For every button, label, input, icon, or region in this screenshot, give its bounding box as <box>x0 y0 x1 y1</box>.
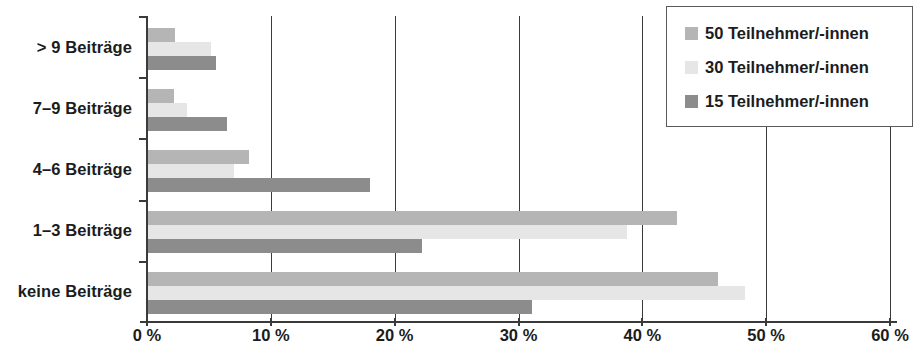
y-axis-tick <box>139 200 147 202</box>
x-axis-tick <box>641 318 643 326</box>
y-axis-tick <box>139 16 147 18</box>
bar <box>147 178 370 192</box>
x-axis-tick-label: 20 % <box>376 327 414 344</box>
y-axis-tick <box>139 138 147 140</box>
bar <box>147 300 532 314</box>
bar <box>147 239 422 253</box>
x-axis-tick-label: 60 % <box>871 327 909 344</box>
legend-label: 15 Teilnehmer/-innen <box>705 93 869 110</box>
x-axis-tick <box>270 318 272 326</box>
category-label: 7–9 Beiträge <box>0 100 132 117</box>
bar <box>147 164 234 178</box>
bar <box>147 42 211 56</box>
y-axis-tick <box>139 77 147 79</box>
bar <box>147 28 175 42</box>
legend: 50 Teilnehmer/-innen30 Teilnehmer/-innen… <box>666 6 913 127</box>
category-label: 4–6 Beiträge <box>0 161 132 178</box>
bar <box>147 286 745 300</box>
bar <box>147 89 174 103</box>
legend-label: 50 Teilnehmer/-innen <box>705 25 869 42</box>
legend-item: 50 Teilnehmer/-innen <box>685 16 912 50</box>
bar <box>147 56 216 70</box>
bar <box>147 150 249 164</box>
legend-item: 30 Teilnehmer/-innen <box>685 50 912 84</box>
x-axis-tick <box>889 318 891 326</box>
x-axis-tick-label: 0 % <box>133 327 161 344</box>
legend-label: 30 Teilnehmer/-innen <box>705 59 869 76</box>
bar-chart: keine Beiträge1–3 Beiträge4–6 Beiträge7–… <box>0 0 915 351</box>
legend-swatch-icon <box>685 61 698 74</box>
x-axis-tick <box>765 318 767 326</box>
bar <box>147 211 677 225</box>
legend-item: 15 Teilnehmer/-innen <box>685 84 912 118</box>
x-axis-tick-label: 40 % <box>624 327 662 344</box>
bar <box>147 225 627 239</box>
category-label: keine Beiträge <box>0 283 132 300</box>
x-axis-tick-label: 30 % <box>500 327 538 344</box>
y-axis-line <box>146 16 148 322</box>
bar <box>147 117 227 131</box>
y-axis-tick <box>139 261 147 263</box>
legend-swatch-icon <box>685 95 698 108</box>
legend-swatch-icon <box>685 27 698 40</box>
bar <box>147 272 718 286</box>
category-label: > 9 Beiträge <box>0 39 132 56</box>
x-axis-tick <box>518 318 520 326</box>
x-axis-tick <box>146 318 148 326</box>
x-axis-tick <box>394 318 396 326</box>
x-axis-tick-label: 50 % <box>747 327 785 344</box>
x-axis-tick-label: 10 % <box>252 327 290 344</box>
category-label: 1–3 Beiträge <box>0 222 132 239</box>
bar <box>147 103 187 117</box>
